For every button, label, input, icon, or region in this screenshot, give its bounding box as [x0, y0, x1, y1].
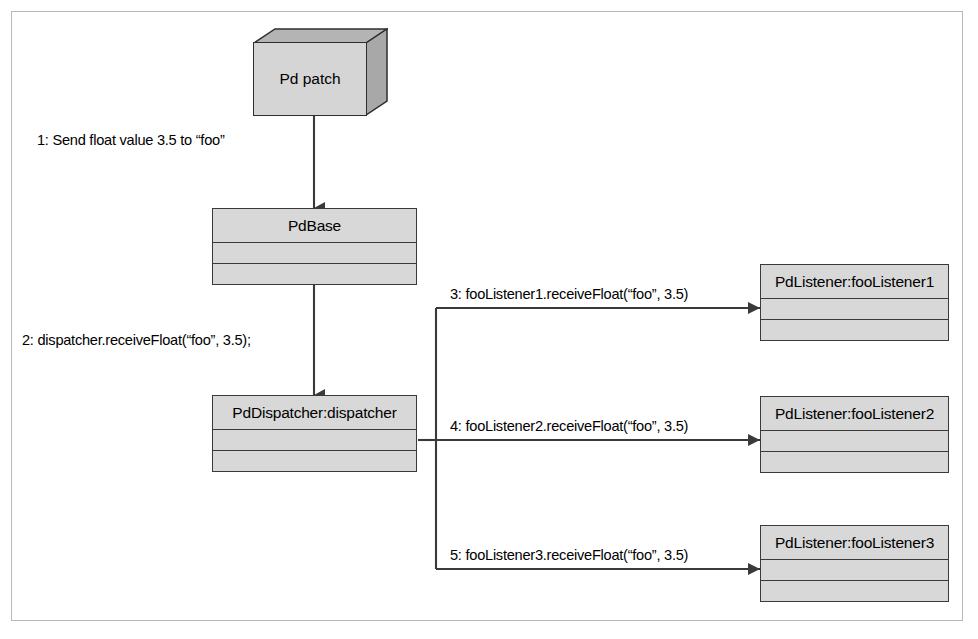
node-listener2-attributes [761, 431, 948, 452]
node-pdbase[interactable]: PdBase [212, 208, 417, 285]
diagram-canvas: Pd patch PdBase PdDispatcher:dispatcher … [0, 0, 978, 639]
message-label-3: 3: fooListener1.receiveFloat(“foo”, 3.5) [450, 287, 688, 302]
node-listener1-title: PdListener:fooListener1 [761, 265, 948, 299]
node-pdbase-title: PdBase [213, 209, 416, 243]
node-dispatcher-attributes [213, 430, 416, 451]
message-label-5: 5: fooListener3.receiveFloat(“foo”, 3.5) [450, 548, 688, 563]
node-pd-patch[interactable]: Pd patch [253, 28, 388, 116]
node-dispatcher[interactable]: PdDispatcher:dispatcher [212, 395, 417, 472]
node-listener3-operations [761, 581, 948, 601]
node-pdbase-attributes [213, 243, 416, 264]
node-listener2[interactable]: PdListener:fooListener2 [760, 396, 949, 473]
node-dispatcher-operations [213, 451, 416, 471]
node-listener3-attributes [761, 560, 948, 581]
message-label-4: 4: fooListener2.receiveFloat(“foo”, 3.5) [450, 419, 688, 434]
message-label-1: 1: Send float value 3.5 to “foo” [37, 133, 225, 148]
node-listener2-operations [761, 452, 948, 472]
node-listener3[interactable]: PdListener:fooListener3 [760, 525, 949, 602]
node-listener1-attributes [761, 299, 948, 320]
node-listener3-title: PdListener:fooListener3 [761, 526, 948, 560]
node-listener2-title: PdListener:fooListener2 [761, 397, 948, 431]
node-listener1-operations [761, 320, 948, 340]
node-listener1[interactable]: PdListener:fooListener1 [760, 264, 949, 341]
message-label-2: 2: dispatcher.receiveFloat(“foo”, 3.5); [22, 333, 251, 348]
node-dispatcher-title: PdDispatcher:dispatcher [213, 396, 416, 430]
node-pdbase-operations [213, 264, 416, 284]
pd-patch-label: Pd patch [253, 42, 367, 116]
